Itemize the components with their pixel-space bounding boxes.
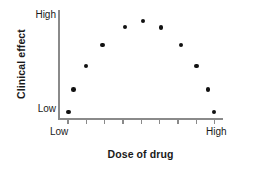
data-point	[71, 87, 76, 92]
data-point	[159, 25, 164, 30]
data-point	[141, 19, 146, 24]
data-point	[179, 43, 184, 48]
x-axis-tick-label-high: High	[206, 126, 227, 138]
data-point	[66, 110, 71, 115]
y-axis-tick-label-low: Low	[22, 103, 56, 114]
x-axis-tick	[141, 119, 142, 124]
x-axis-tick	[214, 119, 215, 124]
y-axis-title: Clinical effect	[14, 14, 28, 114]
x-axis-tick	[159, 119, 160, 124]
x-axis-tick	[86, 119, 87, 124]
data-point	[206, 87, 211, 92]
x-axis-tick	[104, 119, 105, 124]
y-axis-line	[58, 10, 60, 118]
x-axis-title: Dose of drug	[58, 148, 223, 160]
x-axis-tick	[177, 119, 178, 124]
data-point	[194, 64, 199, 69]
scatter-chart: Clinical effect High Low Low High Dose o…	[0, 0, 256, 169]
data-point	[84, 64, 89, 69]
data-point	[212, 110, 217, 115]
y-axis-tick-label-high: High	[22, 9, 56, 20]
x-axis-tick	[196, 119, 197, 124]
x-axis-tick	[67, 119, 68, 124]
data-point	[100, 43, 105, 48]
x-axis-tick	[122, 119, 123, 124]
x-axis-tick-label-low: Low	[50, 126, 68, 138]
data-point	[123, 25, 128, 30]
